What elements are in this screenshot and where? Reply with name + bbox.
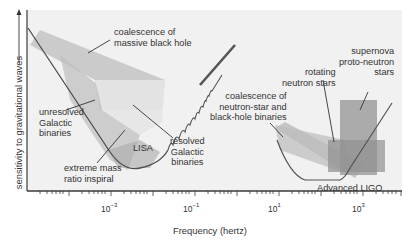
tick-exponent: 1 <box>277 202 280 208</box>
label-line: extreme mass <box>64 163 122 174</box>
label-line: proto-neutron <box>339 57 394 68</box>
label-unresolved-binaries: unresolved Galactic binaries <box>39 107 84 139</box>
label-ns-bh-binaries: coalescence of neutron-star and black-ho… <box>210 91 287 123</box>
x-tick-label: 103 <box>352 203 365 214</box>
tick-exponent: 3 <box>361 202 364 208</box>
tick-exponent: −1 <box>192 202 199 208</box>
label-massive-black-hole: coalescence of massive black hole <box>114 27 192 48</box>
label-line: coalescence of <box>210 91 287 102</box>
label-resolved-binaries: resolved Galactic binaries <box>170 136 205 168</box>
y-axis-label: sensitivity to gravitational waves <box>13 43 24 203</box>
label-line: ratio inspiral <box>64 174 122 185</box>
label-lisa: LISA <box>133 143 153 154</box>
label-line: unresolved <box>39 107 84 118</box>
label-line: massive black hole <box>114 38 192 49</box>
label-rotating-neutron-stars: rotating neutron stars <box>282 67 336 88</box>
gravitational-wave-sensitivity-diagram: sensitivity to gravitational waves 10−3 … <box>0 0 413 243</box>
label-line: Galactic <box>170 147 205 158</box>
y-arrow-head <box>17 9 22 15</box>
label-line: neutron-star and <box>210 102 287 113</box>
label-advanced-ligo: Advanced LIGO <box>317 183 382 194</box>
label-line: rotating <box>282 67 336 78</box>
x-axis-label: Frequency (hertz) <box>150 225 270 236</box>
label-line: neutron stars <box>282 78 336 89</box>
label-line: supernova <box>339 46 394 57</box>
label-emri: extreme mass ratio inspiral <box>64 163 122 184</box>
x-tick-label: 10−1 <box>183 203 199 214</box>
label-supernova: supernova proto-neutron stars <box>339 46 394 78</box>
label-line: resolved <box>170 136 205 147</box>
label-line: binaries <box>39 128 84 139</box>
tick-exponent: −3 <box>110 202 117 208</box>
label-line: black-hole binaries <box>210 112 287 123</box>
label-line: Galactic <box>39 118 84 129</box>
x-tick-label: 10−3 <box>101 203 117 214</box>
x-tick-label: 101 <box>268 203 281 214</box>
label-line: coalescence of <box>114 27 192 38</box>
label-line: binaries <box>170 157 205 168</box>
rotating-ns-band <box>328 140 385 172</box>
label-line: stars <box>339 67 394 78</box>
